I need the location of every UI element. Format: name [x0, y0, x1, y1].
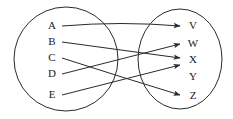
codomain-node-y: Y [189, 70, 197, 82]
edge-a-to-v [62, 24, 180, 27]
edge-b-to-x [62, 42, 180, 58]
codomain-node-v: V [189, 19, 197, 31]
domain-node-c: C [48, 51, 55, 63]
domain-node-e: E [49, 88, 56, 100]
mapping-diagram-canvas: A B C D E V W X Y Z [0, 0, 233, 119]
domain-node-d: D [48, 67, 56, 79]
mapping-diagram-container: A B C D E V W X Y Z [0, 0, 233, 119]
codomain-node-x: X [189, 53, 197, 65]
domain-node-b: B [48, 35, 55, 47]
codomain-node-w: W [188, 37, 199, 49]
codomain-node-z: Z [190, 89, 197, 101]
edge-c-to-z [62, 58, 180, 95]
domain-node-a: A [48, 19, 56, 31]
